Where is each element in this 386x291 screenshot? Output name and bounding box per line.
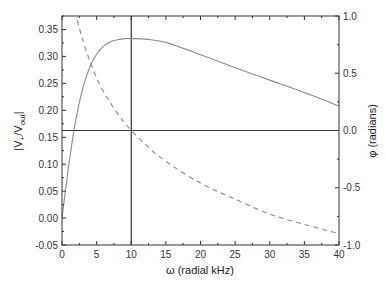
x-tick-label: 30 — [264, 249, 276, 260]
ylabel-subscript: out — [18, 113, 27, 125]
y-right-tick-label: -1.0 — [343, 240, 361, 251]
y-axis-left-label: |V+/Vout| — [12, 111, 27, 150]
x-tick-label: 20 — [195, 249, 207, 260]
axes: 0510152025303540-0.050.000.050.100.150.2… — [35, 11, 360, 261]
y-right-tick-label: 0.0 — [343, 125, 357, 136]
y-left-tick-label: 0.30 — [39, 51, 59, 62]
y-left-tick-label: 0.20 — [39, 105, 59, 116]
y-left-tick-label: 0.15 — [39, 132, 59, 143]
plot-area — [62, 0, 339, 245]
ylabel-part: /V — [12, 125, 24, 136]
y-left-tick-label: 0.05 — [39, 186, 59, 197]
y-left-tick-label: 0.10 — [39, 159, 59, 170]
x-tick-label: 25 — [230, 249, 242, 260]
x-tick-label: 40 — [333, 249, 345, 260]
x-axis-label: ω (radial kHz) — [166, 264, 234, 276]
bode-chart: 0510152025303540-0.050.000.050.100.150.2… — [0, 0, 386, 291]
x-tick-label: 35 — [299, 249, 311, 260]
y-axis-right-label: φ (radians) — [366, 104, 378, 158]
ylabel-part: | — [12, 111, 24, 114]
y-left-tick-label: 0.25 — [39, 78, 59, 89]
phase-curve — [69, 0, 339, 234]
y-right-tick-label: 0.5 — [343, 68, 357, 79]
x-tick-label: 0 — [59, 249, 65, 260]
y-left-tick-label: -0.05 — [35, 240, 58, 251]
magnitude-curve — [62, 39, 339, 219]
x-tick-label: 15 — [160, 249, 172, 260]
x-tick-label: 10 — [126, 249, 138, 260]
y-right-tick-label: -0.5 — [343, 182, 361, 193]
x-tick-label: 5 — [94, 249, 100, 260]
y-left-tick-label: 0.00 — [39, 213, 59, 224]
y-right-tick-label: 1.0 — [343, 11, 357, 22]
y-left-tick-label: 0.35 — [39, 24, 59, 35]
